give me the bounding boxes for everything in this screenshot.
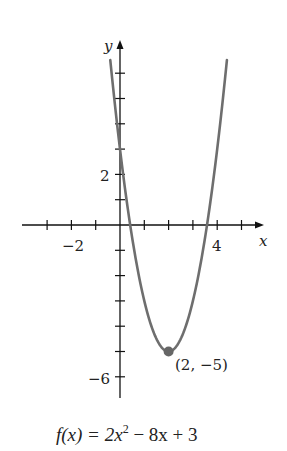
y-axis-arrow-icon	[117, 40, 124, 49]
y-tick-label-neg6: −6	[88, 370, 110, 388]
x-axis	[22, 220, 264, 230]
y-tick-label-2: 2	[100, 167, 110, 185]
y-axis-label: y	[103, 37, 113, 55]
y-axis	[115, 40, 125, 398]
x-tick-label-neg2: −2	[62, 237, 84, 255]
parabola-chart: y x −2 4 2 −6 (2, −5) f(x) = 2x2 − 8x + …	[0, 0, 287, 451]
parabola-curve	[110, 60, 227, 351]
function-caption: f(x) = 2x2 − 8x + 3	[56, 422, 198, 446]
x-axis-arrow-icon	[255, 222, 264, 229]
vertex-label: (2, −5)	[175, 356, 228, 374]
x-tick-label-4: 4	[212, 237, 222, 255]
x-axis-label: x	[259, 232, 268, 250]
vertex-point	[164, 347, 174, 357]
caption-prefix: f(x) = 2x	[56, 424, 123, 446]
caption-suffix: − 8x + 3	[129, 424, 198, 445]
